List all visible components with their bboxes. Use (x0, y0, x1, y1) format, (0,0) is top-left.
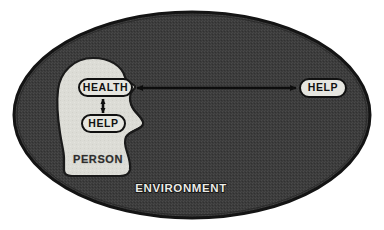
node-help-external-label: HELP (308, 81, 338, 93)
diagram-canvas: HEALTH HELP HELP PERSON ENVIRONMENT (0, 0, 384, 230)
node-help-internal[interactable]: HELP (82, 115, 125, 132)
node-health-internal[interactable]: HEALTH (79, 79, 132, 96)
diagram-svg: HEALTH HELP HELP PERSON ENVIRONMENT (0, 0, 384, 230)
node-help-internal-label: HELP (88, 117, 118, 129)
person-label: PERSON (73, 153, 123, 165)
node-help-external[interactable]: HELP (300, 79, 346, 97)
environment-label: ENVIRONMENT (135, 182, 227, 194)
node-health-internal-label: HEALTH (83, 81, 128, 93)
